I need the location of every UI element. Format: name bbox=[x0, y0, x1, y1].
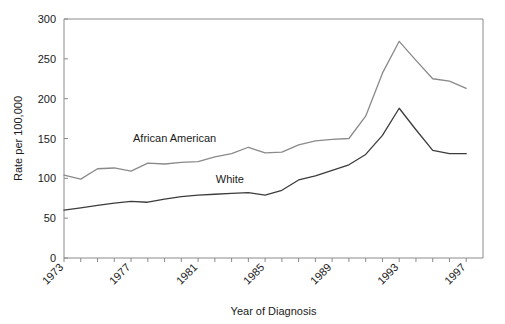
x-tick-label: 1989 bbox=[308, 261, 334, 287]
y-tick-label: 100 bbox=[38, 172, 56, 184]
y-axis-title: Rate per 100,000 bbox=[12, 96, 24, 181]
x-tick-label: 1981 bbox=[174, 261, 200, 287]
y-tick-label: 250 bbox=[38, 53, 56, 65]
y-tick-label: 150 bbox=[38, 133, 56, 145]
x-tick-label: 1985 bbox=[241, 261, 267, 287]
series-annotations-group: African AmericanWhite bbox=[133, 132, 244, 185]
line-chart-svg: 050100150200250300 197319771981198519891… bbox=[0, 0, 505, 324]
y-tick-label: 200 bbox=[38, 93, 56, 105]
axes-group bbox=[64, 19, 483, 258]
x-tick-label: 1977 bbox=[107, 261, 133, 287]
y-tick-label: 50 bbox=[44, 212, 56, 224]
data-series-group bbox=[64, 41, 466, 210]
x-tick-label: 1993 bbox=[375, 261, 401, 287]
series-line-african-american bbox=[64, 41, 466, 179]
series-annotation: White bbox=[216, 173, 244, 185]
y-tick-label: 300 bbox=[38, 13, 56, 25]
chart-figure: 050100150200250300 197319771981198519891… bbox=[0, 0, 505, 324]
x-axis-title: Year of Diagnosis bbox=[231, 305, 317, 317]
tick-marks-group bbox=[64, 19, 466, 262]
x-tick-labels-group: 1973197719811985198919931997 bbox=[40, 261, 468, 287]
x-tick-label: 1973 bbox=[40, 261, 66, 287]
series-line-white bbox=[64, 108, 466, 210]
x-tick-label: 1997 bbox=[442, 261, 468, 287]
y-tick-labels-group: 050100150200250300 bbox=[38, 13, 56, 264]
series-annotation: African American bbox=[133, 132, 216, 144]
axis-titles-group: Year of DiagnosisRate per 100,000 bbox=[12, 96, 317, 317]
